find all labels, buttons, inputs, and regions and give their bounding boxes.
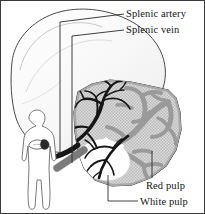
- label-splenic-vein: Splenic vein: [126, 25, 179, 36]
- label-red-pulp: Red pulp: [146, 181, 185, 192]
- label-splenic-artery: Splenic artery: [126, 9, 186, 20]
- spleen-diagram-figure: Splenic artery Splenic vein Red pulp Whi…: [0, 0, 205, 214]
- label-white-pulp: White pulp: [140, 197, 188, 208]
